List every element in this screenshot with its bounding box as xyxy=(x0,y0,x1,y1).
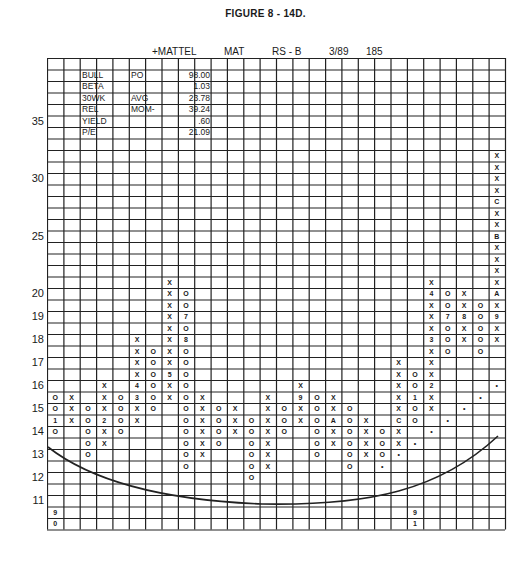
pf-cell: X xyxy=(260,392,276,404)
pf-cell: O xyxy=(80,449,96,461)
pf-cell: O xyxy=(440,334,456,346)
pf-cell: 4 xyxy=(129,380,145,392)
y-tick-label: 11 xyxy=(14,494,44,506)
info-label: REL xyxy=(82,104,99,116)
pf-cell: X xyxy=(260,426,276,438)
pf-chart-grid: BULL PO 98.00 BETA 1.03 30WK AVG 23.78 R… xyxy=(47,58,505,530)
pf-cell: • xyxy=(472,392,488,404)
pf-cell: X xyxy=(162,323,178,335)
pf-cell: O xyxy=(145,357,161,369)
pf-cell: O xyxy=(178,426,194,438)
pf-cell: X xyxy=(194,426,210,438)
pf-cell: X xyxy=(129,334,145,346)
pf-cell: O xyxy=(112,403,128,415)
pf-cell: O xyxy=(243,472,259,484)
pf-cell: O xyxy=(243,415,259,427)
pf-cell: 1 xyxy=(407,392,423,404)
pf-cell: O xyxy=(112,426,128,438)
pf-cell: X xyxy=(489,323,505,335)
header-rs: RS - B xyxy=(272,46,301,57)
pf-cell: O xyxy=(80,415,96,427)
pf-cell: X xyxy=(489,219,505,231)
pf-cell: X xyxy=(423,369,439,381)
pf-cell: O xyxy=(178,392,194,404)
pf-cell: O xyxy=(112,415,128,427)
pf-cell: • xyxy=(489,380,505,392)
pf-cell: X xyxy=(63,392,79,404)
pf-cell: B xyxy=(489,231,505,243)
pf-cell: • xyxy=(374,461,390,473)
pf-cell: O xyxy=(472,346,488,358)
pf-cell: 4 xyxy=(423,288,439,300)
pf-cell: 5 xyxy=(162,369,178,381)
info-key: PO xyxy=(131,70,143,82)
pf-cell: A xyxy=(325,415,341,427)
pf-cell: 8 xyxy=(456,311,472,323)
pf-cell: X xyxy=(260,449,276,461)
info-label: P/E xyxy=(82,127,96,139)
info-key: AVG xyxy=(131,93,148,105)
pf-cell: X xyxy=(292,403,308,415)
y-tick-label: 15 xyxy=(14,402,44,414)
pf-cell: X xyxy=(489,185,505,197)
y-tick-label: 35 xyxy=(14,115,44,127)
y-tick-label: 18 xyxy=(14,333,44,345)
pf-cell: X xyxy=(162,380,178,392)
pf-cell: X xyxy=(96,392,112,404)
pf-cell: X xyxy=(260,403,276,415)
pf-cell: O xyxy=(472,300,488,312)
pf-cell: X xyxy=(325,438,341,450)
info-label: BULL xyxy=(82,70,103,82)
pf-cell: X xyxy=(260,415,276,427)
pf-cell: O xyxy=(243,426,259,438)
pf-cell: X xyxy=(423,403,439,415)
pf-cell: X xyxy=(162,288,178,300)
pf-cell: O xyxy=(80,438,96,450)
y-tick-label: 12 xyxy=(14,471,44,483)
pf-cell: X xyxy=(489,254,505,266)
pf-cell: X xyxy=(391,380,407,392)
pf-cell: O xyxy=(145,392,161,404)
pf-cell: X xyxy=(325,392,341,404)
pf-cell: X xyxy=(162,311,178,323)
pf-cell: X xyxy=(423,323,439,335)
pf-cell: O xyxy=(178,438,194,450)
pf-cell: 9 xyxy=(292,392,308,404)
pf-cell: O xyxy=(178,300,194,312)
pf-cell: O xyxy=(47,392,63,404)
pf-cell: X xyxy=(227,415,243,427)
pf-cell: O xyxy=(243,461,259,473)
pf-cell: O xyxy=(243,449,259,461)
pf-cell: X xyxy=(489,334,505,346)
pf-cell: X xyxy=(489,242,505,254)
pf-cell: O xyxy=(407,403,423,415)
pf-cell: 0 xyxy=(47,518,63,530)
pf-cell: X xyxy=(129,403,145,415)
pf-cell: X xyxy=(391,357,407,369)
pf-cell: X xyxy=(162,277,178,289)
pf-cell: O xyxy=(211,403,227,415)
info-value: 98.00 xyxy=(150,70,210,82)
pf-cell: X xyxy=(96,403,112,415)
pf-cell: O xyxy=(145,403,161,415)
pf-cell: O xyxy=(178,369,194,381)
pf-cell: X xyxy=(423,300,439,312)
pf-cell: A xyxy=(489,288,505,300)
pf-cell: X xyxy=(456,334,472,346)
pf-cell: O xyxy=(440,346,456,358)
pf-cell: O xyxy=(276,426,292,438)
pf-cell: X xyxy=(194,392,210,404)
info-label: BETA xyxy=(82,81,104,93)
pf-cell: O xyxy=(178,357,194,369)
pf-cell: O xyxy=(80,403,96,415)
pf-cell: X xyxy=(489,277,505,289)
pf-cell: 3 xyxy=(129,392,145,404)
pf-cell: X xyxy=(227,403,243,415)
pf-cell: O xyxy=(112,392,128,404)
pf-cell: X xyxy=(325,426,341,438)
pf-cell: X xyxy=(260,461,276,473)
pf-cell: O xyxy=(178,288,194,300)
pf-cell: X xyxy=(391,392,407,404)
info-value: 1.03 xyxy=(150,81,210,93)
pf-cell: O xyxy=(309,392,325,404)
